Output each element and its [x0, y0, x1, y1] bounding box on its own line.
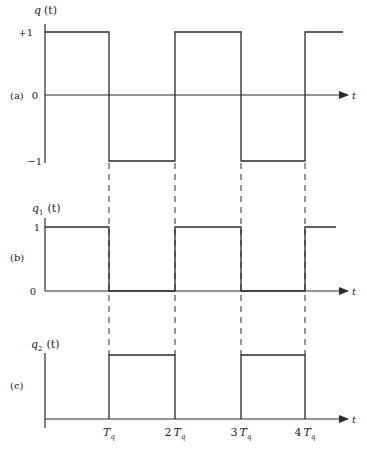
- panel-b: q1(t) 1 0 (b) t: [10, 202, 357, 297]
- ytick-1-b: 1: [34, 222, 40, 233]
- panel-a: q(t) +1 0 −1 (a) t: [10, 4, 357, 167]
- xtick-tq: Tq: [103, 426, 115, 441]
- xlabel-b: t: [352, 286, 357, 297]
- xtick-2tq: 2Tq: [165, 426, 186, 441]
- ytick-plus1: +1: [18, 27, 33, 38]
- ylabel-c: q2(t): [31, 338, 60, 353]
- dashed-guides: [109, 163, 305, 355]
- xtick-4tq: 4Tq: [295, 426, 316, 441]
- xlabel-c: t: [352, 414, 357, 425]
- xlabel-a: t: [352, 90, 357, 101]
- waveform-q2-pulse2: [241, 355, 305, 419]
- ytick-zero-b: 0: [30, 286, 36, 297]
- ytick-zero-a: 0: [32, 90, 38, 101]
- square-wave-figure: q(t) +1 0 −1 (a) t q1(t) 1 0 (b) t q2(t)…: [0, 0, 367, 451]
- ytick-minus1: −1: [27, 156, 42, 167]
- waveform-q: [45, 32, 343, 161]
- panel-tag-c: (c): [10, 380, 24, 391]
- panel-tag-a: (a): [10, 90, 24, 101]
- ylabel-b: q1(t): [32, 202, 61, 217]
- ylabel-a: q(t): [34, 4, 57, 17]
- waveform-q1: [45, 227, 336, 291]
- panel-tag-b: (b): [10, 252, 24, 263]
- xtick-3tq: 3Tq: [231, 426, 252, 441]
- waveform-q2-pulse1: [109, 355, 175, 419]
